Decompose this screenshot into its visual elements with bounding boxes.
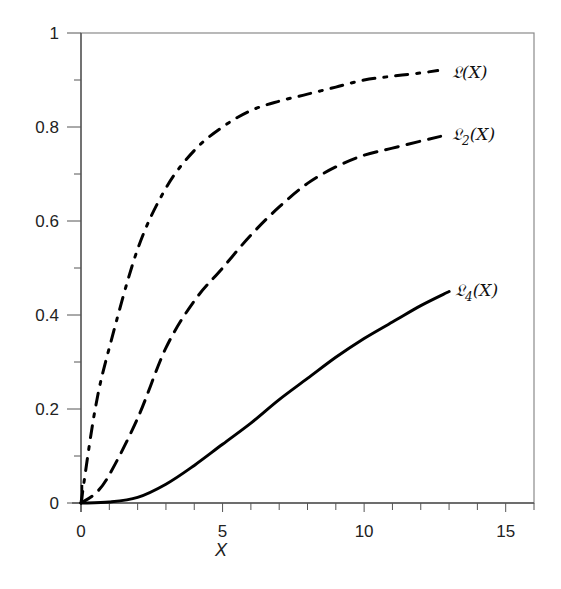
series-label-l4: 𝔏4(X) xyxy=(455,280,498,304)
curve-series-0 xyxy=(81,71,438,503)
x-axis-label: X xyxy=(214,540,228,560)
series-label-l4-sub: 4 xyxy=(464,290,473,304)
curve-series-1 xyxy=(81,136,441,503)
x-tick-label: 5 xyxy=(218,522,227,541)
y-tick-label: 1 xyxy=(50,24,59,43)
series-label-l2-sub: 2 xyxy=(461,134,470,148)
curves xyxy=(81,71,449,503)
y-tick-label: 0.6 xyxy=(35,212,59,231)
x-tick-label: 15 xyxy=(496,522,515,541)
y-tick-label: 0.8 xyxy=(35,118,59,137)
x-tick-label: 0 xyxy=(76,522,85,541)
x-tick-label: 10 xyxy=(355,522,374,541)
curve-series-2 xyxy=(81,292,449,504)
line-chart: 05101500.20.40.60.81 X 𝔏(X) 𝔏2(X) 𝔏4(X) xyxy=(0,0,561,589)
series-label-l2: 𝔏2(X) xyxy=(452,124,495,148)
y-tick-label: 0.2 xyxy=(35,400,59,419)
series-label-l2-tail: (X) xyxy=(470,124,495,144)
y-tick-label: 0.4 xyxy=(35,306,59,325)
series-label-l: 𝔏(X) xyxy=(452,62,487,82)
series-label-l4-tail: (X) xyxy=(473,280,498,300)
plot-frame xyxy=(72,33,534,512)
axis-ticks xyxy=(67,33,534,512)
y-tick-label: 0 xyxy=(50,494,59,513)
plot-border xyxy=(81,33,534,503)
